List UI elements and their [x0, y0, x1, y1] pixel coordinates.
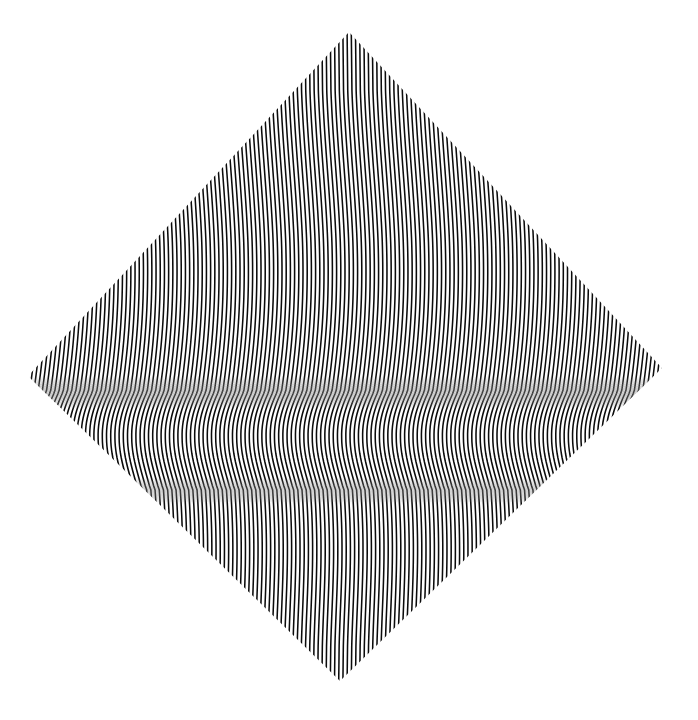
compression-grey-band — [0, 405, 698, 408]
op-art-diamond-figure — [0, 0, 698, 720]
top-edge-text-fragment — [168, 0, 228, 6]
artwork-stage — [0, 0, 698, 720]
